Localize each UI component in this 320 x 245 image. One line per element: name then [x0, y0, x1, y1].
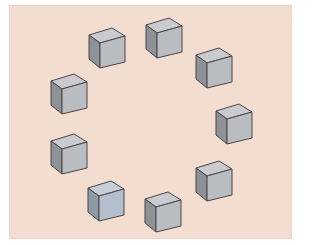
cube-9: [50, 73, 88, 115]
cube-7: [87, 180, 125, 222]
cube-5: [195, 160, 233, 202]
cube-3: [195, 47, 233, 89]
cube-2: [145, 17, 183, 59]
cube-4: [215, 103, 253, 145]
cube-6: [144, 191, 182, 233]
cube-1: [88, 27, 126, 69]
cube-8: [50, 133, 88, 175]
